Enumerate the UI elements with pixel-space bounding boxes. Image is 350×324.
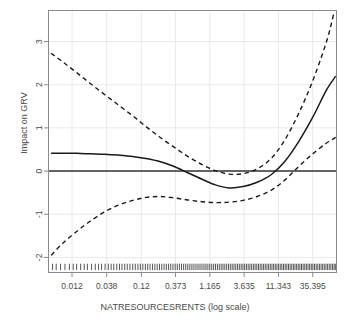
y-tick-label: -1 <box>35 210 45 218</box>
y-tick-label: -2 <box>35 253 45 261</box>
plot-background <box>0 0 350 324</box>
x-tick-label: 0.373 <box>165 281 187 291</box>
x-axis-label: NATRESOURCESRENTS (log scale) <box>0 302 350 312</box>
y-tick-label: 1 <box>35 125 45 130</box>
y-tick-label: 2 <box>35 82 45 87</box>
x-tick-label: 3.635 <box>233 281 255 291</box>
chart-root: 0.0120.0380.120.3731.1653.63511.34335.39… <box>0 0 350 324</box>
y-tick-label: 3 <box>35 39 45 44</box>
x-tick-label: 1.165 <box>199 281 221 291</box>
x-tick-label: 11.343 <box>266 281 292 291</box>
gam-partial-effect-plot: 0.0120.0380.120.3731.1653.63511.34335.39… <box>0 0 350 324</box>
x-tick-label: 0.12 <box>133 281 150 291</box>
x-tick-label: 0.012 <box>61 281 83 291</box>
x-tick-label: 0.038 <box>96 281 118 291</box>
y-tick-label: 0 <box>35 168 45 173</box>
y-axis-label: Impact on GRV <box>19 63 29 183</box>
x-tick-label: 35.395 <box>300 281 326 291</box>
